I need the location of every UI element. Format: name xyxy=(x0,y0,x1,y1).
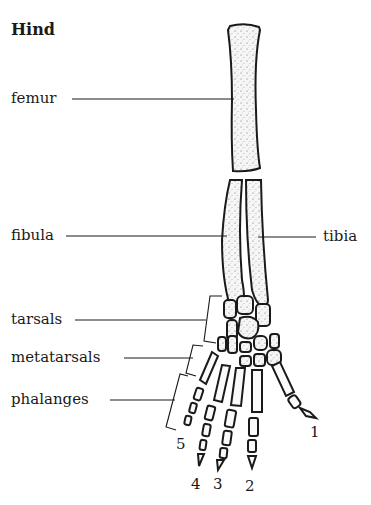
label-fibula: fibula xyxy=(11,227,54,244)
label-tibia: tibia xyxy=(323,228,357,245)
label-femur: femur xyxy=(11,90,56,107)
digit-label-5: 5 xyxy=(176,436,186,452)
label-tarsals: tarsals xyxy=(11,311,62,328)
digit-label-1: 1 xyxy=(310,424,320,440)
femur-bone xyxy=(228,24,260,171)
fibula-bone xyxy=(222,180,244,309)
digit-bones xyxy=(184,352,316,470)
tibia-bone xyxy=(246,180,268,306)
tarsals-bracket xyxy=(204,296,222,343)
metatarsals-bracket xyxy=(186,345,203,376)
digit-label-2: 2 xyxy=(245,478,255,494)
tarsal-bones xyxy=(218,296,281,366)
label-phalanges: phalanges xyxy=(11,391,89,408)
digit-label-3: 3 xyxy=(213,476,223,492)
label-metatarsals: metatarsals xyxy=(11,349,100,366)
digit-label-4: 4 xyxy=(191,476,201,492)
